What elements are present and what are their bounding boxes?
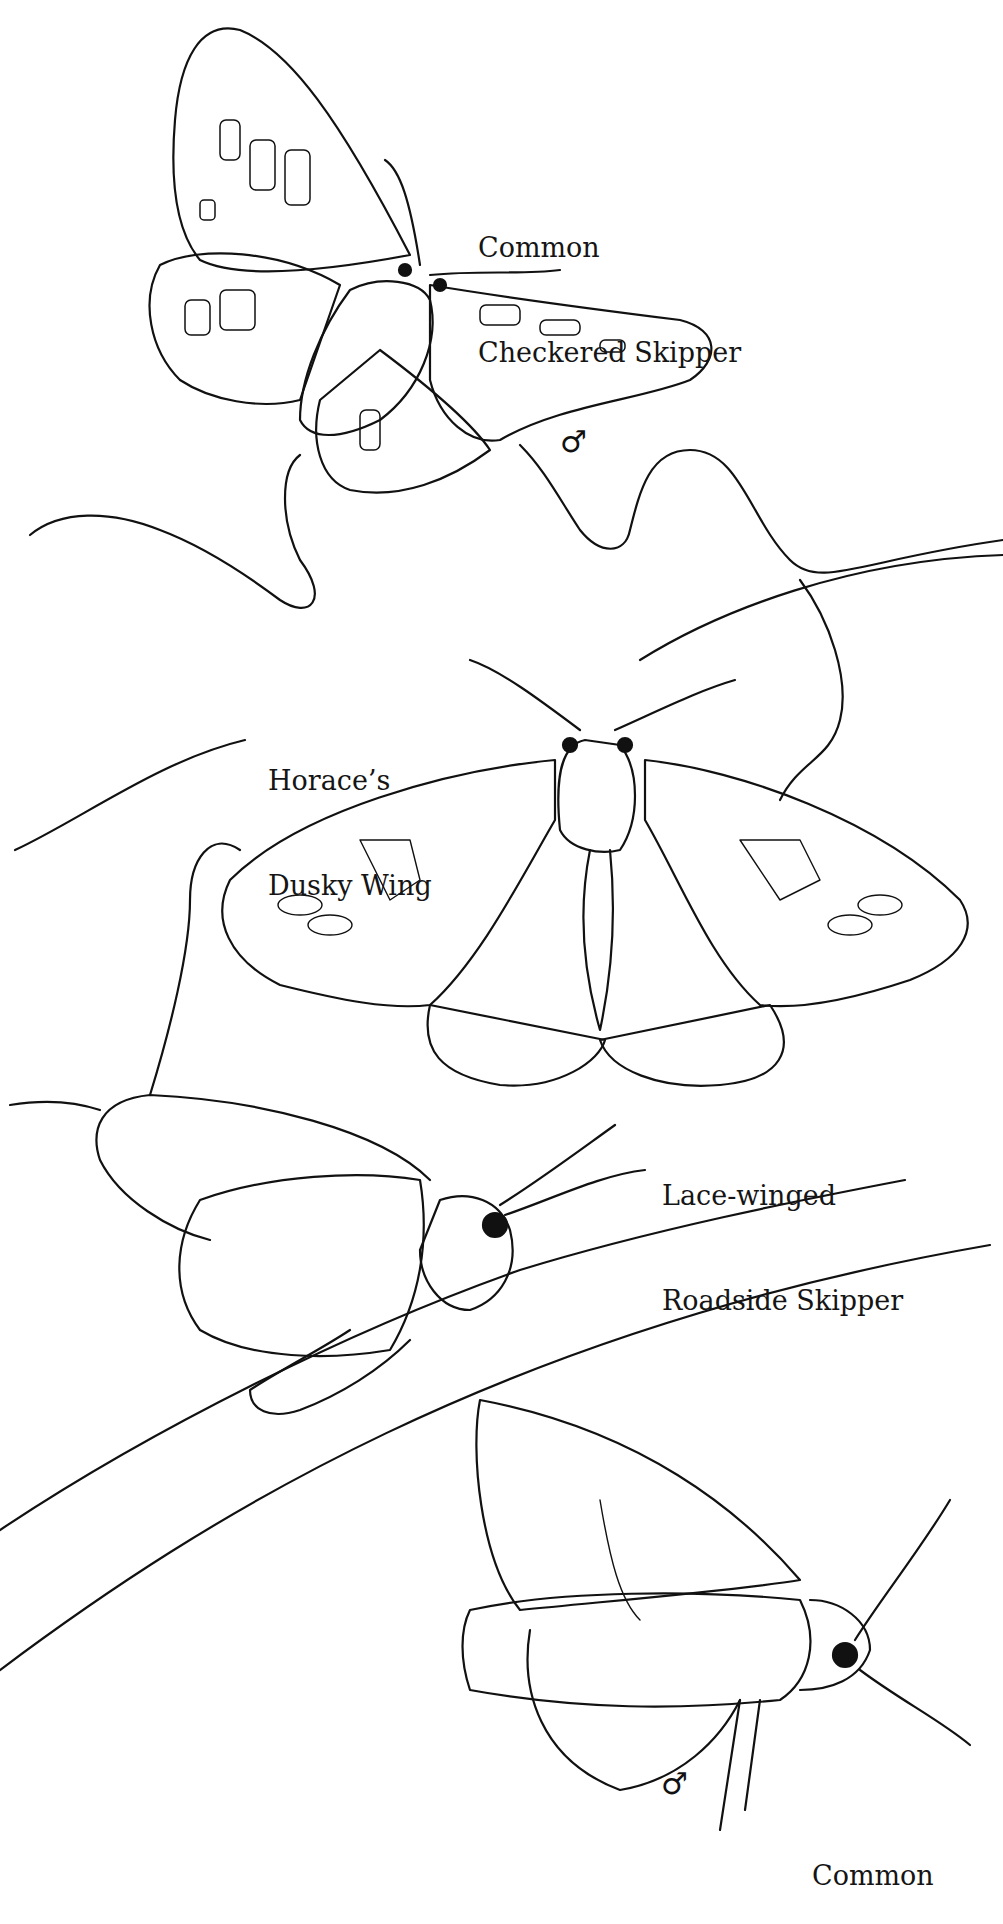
label-line: Dusky Wing [268, 868, 432, 903]
label-line: Lace-winged [662, 1178, 903, 1213]
label-line: Checkered Skipper [478, 335, 741, 370]
label-common-branded-skipper: Common Branded Skipper [812, 1788, 934, 1924]
label-line: Horace’s [268, 763, 432, 798]
common-branded-skipper-drawing [463, 1400, 971, 1830]
label-line: Roadside Skipper [662, 1283, 903, 1318]
male-symbol-icon: ♂ [661, 1766, 688, 1801]
lace-winged-roadside-skipper-drawing [97, 1095, 645, 1414]
label-horaces-dusky-wing: Horace’s Dusky Wing [268, 693, 432, 938]
plant-stems [0, 445, 1003, 1670]
label-common-checkered-skipper: Common Checkered Skipper [478, 160, 741, 405]
label-line: Common [478, 230, 741, 265]
male-symbol-icon: ♂ [560, 424, 587, 459]
label-lace-winged-roadside-skipper: Lace-winged Roadside Skipper [662, 1108, 903, 1353]
label-line: Common [812, 1858, 934, 1893]
